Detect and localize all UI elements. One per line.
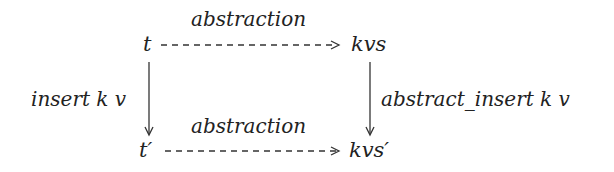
node-t-prime: t′ (139, 140, 152, 161)
abstract-insert-arrow (366, 62, 374, 135)
arrowhead-icon (331, 41, 339, 49)
node-kvs-prime: kvs′ (349, 140, 389, 161)
label-abstract-insert: abstract_insert k v (381, 89, 570, 109)
insert-arrow (145, 62, 153, 135)
node-t: t (143, 34, 151, 55)
label-bottom-abstraction: abstraction (191, 116, 306, 136)
node-kvs: kvs (351, 34, 386, 55)
label-top-abstraction: abstraction (191, 9, 306, 29)
label-insert: insert k v (31, 89, 126, 109)
bottom-abstraction-arrow (165, 147, 339, 155)
diagram-arrows (0, 0, 614, 172)
commutative-diagram: t kvs t′ kvs′ abstraction abstraction in… (0, 0, 614, 172)
top-abstraction-arrow (161, 41, 339, 49)
